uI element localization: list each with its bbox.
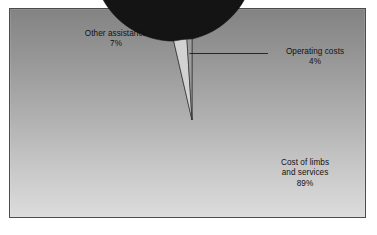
pie-label-other-assistance: Other assistance 7% xyxy=(68,29,164,50)
pie-slice-cost-of-limbs xyxy=(93,0,255,120)
pie-label-cost-of-limbs: Cost of limbs and services 89% xyxy=(258,158,352,189)
pie-chart-figure: Other assistance 7% Operating costs 4% C… xyxy=(0,0,377,235)
pie-label-cost-of-limbs-line1: Cost of limbs xyxy=(258,158,352,168)
pie-label-operating-costs-name: Operating costs xyxy=(269,47,361,57)
pie-chart-graphic xyxy=(0,0,377,235)
pie-label-operating-costs: Operating costs 4% xyxy=(269,47,361,68)
pie-label-operating-costs-value: 4% xyxy=(269,57,361,67)
pie-label-cost-of-limbs-value: 89% xyxy=(258,179,352,189)
pie-label-other-assistance-name: Other assistance xyxy=(68,29,164,39)
pie-label-cost-of-limbs-line2: and services xyxy=(258,168,352,178)
pie-label-other-assistance-value: 7% xyxy=(68,39,164,49)
